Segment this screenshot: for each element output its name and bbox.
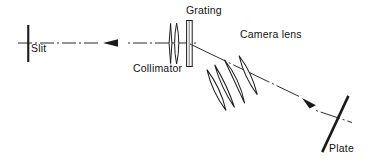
grating-label: Grating [186, 4, 222, 16]
slit-bar [27, 25, 29, 62]
diffracted-axis-lower-segment [316, 111, 352, 123]
collimator-element-1 [169, 24, 172, 64]
plate-label: Plate [329, 142, 354, 154]
collimator-label: Collimator [133, 62, 183, 74]
grating-assembly [187, 21, 193, 67]
camera-lens-label: Camera lens [240, 28, 302, 40]
camera-lens-assembly [204, 52, 260, 112]
incident-beam-arrowhead [103, 39, 118, 47]
slit-label: Slit [31, 42, 46, 54]
collimator-element-2 [175, 23, 179, 64]
optics-diagram-canvas: Slit Collimator Grating Camera lens Plat… [0, 0, 369, 166]
diffracted-beam-arrowhead [302, 98, 316, 109]
slit-assembly [27, 25, 29, 62]
optical-diagram: Slit Collimator Grating Camera lens Plat… [0, 0, 369, 166]
